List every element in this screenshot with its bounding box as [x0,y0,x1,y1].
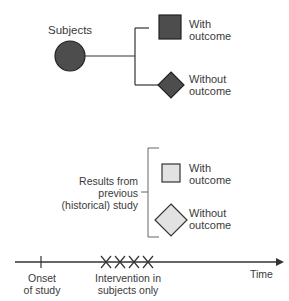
subjects-without-outcome-diamond [158,72,184,98]
diagram-canvas [0,0,289,301]
subjects-with-outcome-label: With outcome [189,18,231,42]
historical-without-outcome-diamond [155,204,187,236]
historical-with-outcome-line2: outcome [189,174,231,186]
intervention-label-line2: subjects only [88,284,168,296]
subjects-label: Subjects [48,24,92,36]
intervention-label-line1: Intervention in [88,272,168,284]
historical-with-outcome-square [162,164,180,182]
onset-label: Onset of study [16,272,68,296]
historical-without-outcome-line1: Without [189,207,231,219]
subjects-with-outcome-line1: With [189,18,231,30]
historical-label-line2: previous [60,187,138,199]
historical-label-line3: (historical) study [60,199,138,211]
timeline-arrowhead [276,258,284,266]
historical-with-outcome-label: With outcome [189,162,231,186]
subjects-without-outcome-label: Without outcome [189,73,231,97]
historical-without-outcome-label: Without outcome [189,207,231,231]
subjects-without-outcome-line2: outcome [189,85,231,97]
historical-with-outcome-line1: With [189,162,231,174]
onset-label-line1: Onset [16,272,68,284]
intervention-label: Intervention in subjects only [88,272,168,296]
subjects-with-outcome-line2: outcome [189,30,231,42]
onset-label-line2: of study [16,284,68,296]
historical-study-label: Results from previous (historical) study [60,175,138,211]
time-label: Time [250,268,273,280]
historical-without-outcome-line2: outcome [189,219,231,231]
historical-label-line1: Results from [60,175,138,187]
subjects-circle [55,41,85,71]
subjects-without-outcome-line1: Without [189,73,231,85]
subjects-with-outcome-square [159,15,181,39]
